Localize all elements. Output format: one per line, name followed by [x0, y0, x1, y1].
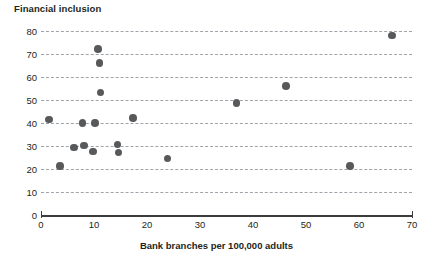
- data-point: [129, 114, 137, 122]
- y-axis-tick-label: 80: [3, 26, 37, 37]
- gridline: [41, 100, 412, 101]
- x-axis-tick-label: 10: [89, 219, 100, 230]
- data-point: [45, 116, 53, 124]
- data-point: [91, 119, 99, 127]
- data-point: [388, 32, 396, 40]
- gridline: [41, 192, 412, 193]
- y-axis-tick-label: 60: [3, 72, 37, 83]
- gridline: [41, 54, 412, 55]
- data-point: [79, 119, 87, 127]
- y-axis-tick-label: 30: [3, 141, 37, 152]
- x-axis-tick-label: 50: [301, 219, 312, 230]
- y-axis-tick-label: 40: [3, 118, 37, 129]
- y-axis-tick-label: 20: [3, 164, 37, 175]
- x-axis-tick-label: 0: [38, 219, 43, 230]
- data-point: [282, 82, 290, 90]
- x-axis-tick-label: 20: [142, 219, 153, 230]
- gridline: [41, 31, 412, 32]
- data-point: [115, 149, 123, 157]
- y-axis-tick-label: 70: [3, 49, 37, 60]
- plot-area: [41, 31, 412, 215]
- gridline: [41, 146, 412, 147]
- data-point: [97, 89, 105, 97]
- gridline: [41, 77, 412, 78]
- data-point: [94, 45, 102, 53]
- chart-title: Financial inclusion: [14, 3, 101, 14]
- x-axis-tick-label: 30: [195, 219, 206, 230]
- x-axis-end-cap: [41, 211, 42, 218]
- data-point: [96, 59, 104, 67]
- y-axis-tick-labels: 01020304050607080: [0, 31, 37, 215]
- data-point: [164, 155, 172, 163]
- y-axis-tick-label: 50: [3, 95, 37, 106]
- y-axis-tick-label: 10: [3, 187, 37, 198]
- data-point: [80, 142, 88, 150]
- scatter-chart: Financial inclusion 01020304050607080 01…: [0, 0, 433, 265]
- data-point: [346, 162, 354, 170]
- x-axis-tick-labels: 010203040506070: [0, 219, 433, 235]
- data-point: [233, 99, 241, 107]
- data-point: [56, 162, 64, 170]
- data-point: [89, 148, 97, 156]
- x-axis-title: Bank branches per 100,000 adults: [0, 240, 433, 251]
- x-axis-tick-label: 70: [407, 219, 418, 230]
- data-point: [114, 141, 122, 149]
- x-axis-tick-label: 40: [248, 219, 259, 230]
- x-axis-tick-label: 60: [354, 219, 365, 230]
- x-axis-line: [41, 215, 412, 217]
- gridline: [41, 169, 412, 170]
- x-axis-end-cap: [412, 211, 413, 218]
- data-point: [70, 144, 78, 152]
